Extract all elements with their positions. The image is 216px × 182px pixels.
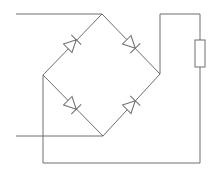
bridge-rectifier-diagram bbox=[0, 0, 216, 182]
output-negative-wire bbox=[43, 67, 200, 163]
output-positive-wire bbox=[160, 14, 200, 74]
diode-triangle-icon bbox=[64, 36, 81, 53]
diode-top-left bbox=[63, 35, 81, 53]
resistor-icon bbox=[195, 40, 205, 67]
